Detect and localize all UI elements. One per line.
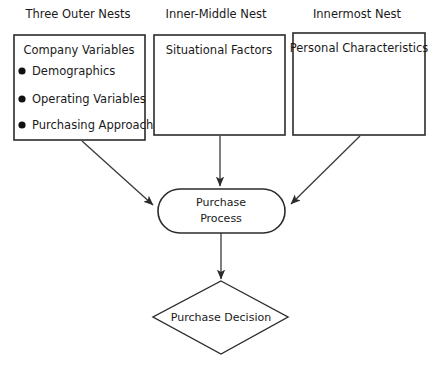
box-company-variables-title: Company Variables <box>24 43 135 57</box>
connector-personal-to-process <box>291 136 360 204</box>
bullet-dot-icon <box>18 67 25 74</box>
node-purchase-decision-label: Purchase Decision <box>171 311 271 324</box>
node-purchase-process-line1: Purchase <box>196 196 246 209</box>
box-situational-factors-title: Situational Factors <box>166 43 272 57</box>
connector-company-to-process <box>82 141 153 205</box>
bullet-demographics: Demographics <box>32 64 115 78</box>
bullet-dot-icon <box>18 121 25 128</box>
bullet-dot-icon <box>18 95 25 102</box>
nest-header-inner-middle: Inner-Middle Nest <box>165 7 266 21</box>
box-personal-characteristics-title: Personal Characteristics <box>290 41 429 55</box>
diagram-root: Three Outer Nests Inner-Middle Nest Inne… <box>0 0 436 367</box>
node-purchase-process-line2: Process <box>200 212 242 225</box>
nested-approach-diagram: Three Outer Nests Inner-Middle Nest Inne… <box>0 0 436 367</box>
bullet-operating-variables: Operating Variables <box>32 92 146 106</box>
nest-header-innermost: Innermost Nest <box>313 7 402 21</box>
bullet-purchasing-approach: Purchasing Approach <box>32 118 153 132</box>
nest-header-outer: Three Outer Nests <box>24 7 130 21</box>
